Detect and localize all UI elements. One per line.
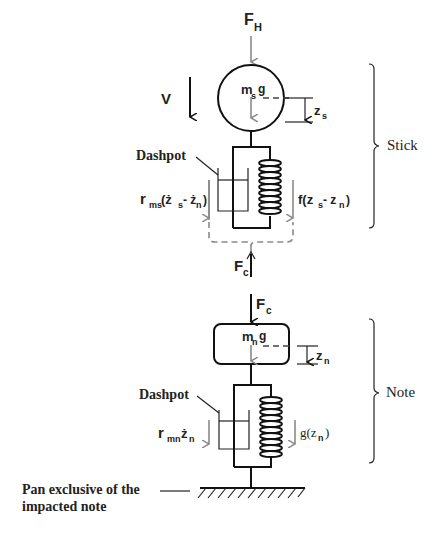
note-group-brace: Note (369, 319, 416, 463)
stick-group-brace: Stick (369, 64, 418, 228)
note-mass-sub: n (252, 337, 258, 347)
stick-mass-g: g (258, 82, 265, 96)
hammer-force-subscript: H (254, 21, 262, 33)
stick-contact-force-label: F (234, 257, 243, 274)
note-damping-z: ż (181, 426, 188, 441)
stick-dashpot-label: Dashpot (136, 148, 186, 163)
ground-support (160, 467, 305, 498)
note-damping-rsub: mn (167, 434, 181, 444)
stick-internal-forces: r ms (ż s - ż n ) f(z s - z n ) (140, 180, 350, 262)
note-spring-coil-icon (260, 397, 282, 457)
note-displacement-sub: n (324, 356, 330, 366)
stick-spring-coil-icon (259, 160, 281, 216)
note-spring-n: n (318, 433, 324, 443)
note-spring-close: ) (325, 425, 329, 440)
stick-damping-n: n (196, 200, 202, 210)
note-dashpot-label: Dashpot (139, 387, 189, 402)
stick-displacement-label: z (314, 103, 321, 118)
note-spring-dashpot: Dashpot (139, 364, 282, 467)
note-damping-r: r (158, 424, 164, 441)
note-mass-g: g (259, 329, 266, 343)
stick-damping-r: r (140, 190, 146, 207)
note-internal-forces: r mn ż n g(z n ) (158, 420, 329, 444)
stick-contact-force-sub: c (243, 267, 249, 278)
note-damping-n: n (189, 434, 195, 444)
note-displacement-label: z (316, 348, 323, 363)
stick-group-label: Stick (387, 137, 418, 153)
hammer-force-label: F (244, 11, 254, 28)
stick-displacement-sub: s (322, 111, 327, 121)
stick-contact-force-arrow: F c (234, 252, 255, 278)
ground-label-line1: Pan exclusive of the (22, 482, 140, 497)
note-mass: m n g (214, 324, 289, 364)
stick-spring-n: n (339, 200, 345, 210)
stick-spring-minus: - z (323, 193, 336, 207)
velocity-arrow: V (161, 77, 190, 117)
note-contact-force-label: F (256, 295, 265, 312)
velocity-label: V (161, 90, 171, 107)
stick-spring-f: f(z (298, 192, 314, 207)
stick-displacement-indicator: z s (263, 98, 327, 122)
stick-damping-expr-open: (ż (161, 192, 172, 207)
note-group-label: Note (386, 384, 416, 400)
note-spring-g: g(z (300, 425, 317, 440)
stick-damping-minus: - ż (183, 193, 196, 207)
stick-note-model-diagram: F H V m s g z s (0, 0, 444, 540)
note-contact-force-arrow: F c (251, 294, 272, 322)
stick-damping-close: ) (203, 193, 207, 207)
ground-label-line2: impacted note (22, 499, 106, 514)
note-contact-force-sub: c (266, 305, 272, 316)
stick-spring-close: ) (346, 193, 350, 207)
hammer-force-arrow: F H (244, 11, 262, 62)
